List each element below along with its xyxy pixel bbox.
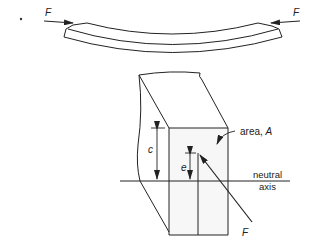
dimension-c [151,128,165,179]
force-arrow-right [271,21,300,23]
neutral-axis-label-line2: axis [259,181,276,192]
area-label-prefix: area, [240,126,266,137]
force-label-left: F [45,7,52,18]
force-arrow-left [44,21,73,23]
dimension-e-label: e [181,162,187,173]
area-label-symbol: A [265,126,273,137]
neutral-axis-label-line1: neutral [253,169,282,180]
area-label: area, A [240,126,273,137]
eccentric-loading-diagram: F F neutral axis c e F area, A [0,0,312,241]
bullet-dot [20,18,22,20]
eccentric-force-label: F [242,227,249,238]
force-label-right: F [293,7,300,18]
curved-beam [64,23,282,53]
dimension-c-label: c [148,144,153,155]
